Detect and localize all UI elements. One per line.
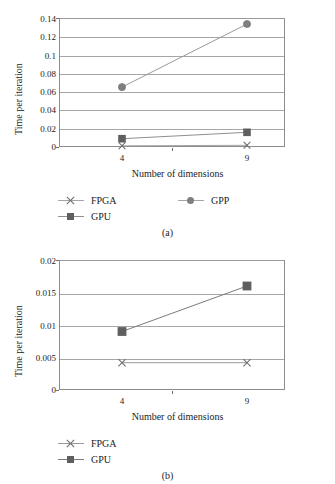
legend-label-gpp-a: GPP: [211, 195, 229, 206]
x-glyph: [66, 439, 75, 448]
legend-label-gpu-b: GPU: [91, 454, 111, 465]
data-point-gpu-b-4: [118, 327, 127, 336]
square-marker-icon: [58, 454, 84, 465]
x-marker-icon: [58, 438, 84, 449]
x-axis-title-a: Number of dimensions: [10, 168, 335, 179]
x-axis-title-b: Number of dimensions: [10, 411, 335, 422]
legend-item-fpga-a: FPGA: [58, 195, 117, 206]
x-marker-icon: [58, 195, 84, 206]
series-line-gpu-b: [122, 286, 247, 332]
legend-item-gpu-b: GPU: [58, 454, 111, 465]
data-point-gpu-a-9: [243, 129, 251, 137]
legend-label-fpga-a: FPGA: [91, 195, 117, 206]
figure-caption-a: (a): [0, 227, 335, 238]
data-point-gpu-a-4: [118, 135, 126, 143]
x-glyph: [66, 196, 75, 205]
figure-panel-a: Time per iteration 0.14 0.12 0.1 0.08 0.…: [0, 0, 335, 242]
series-line-gpp-a: [122, 24, 247, 87]
data-point-gpp-a-9: [243, 20, 250, 27]
circle-marker-icon: [178, 195, 204, 206]
square-marker-icon: [58, 211, 84, 222]
data-point-gpp-a-4: [118, 84, 125, 91]
legend-a: FPGA GPP GPU: [0, 195, 335, 225]
legend-item-gpu-a: GPU: [58, 211, 111, 222]
series-line-fpga-a: [122, 145, 247, 146]
series-line-gpu-a: [122, 132, 247, 138]
legend-item-gpp-a: GPP: [178, 195, 229, 206]
data-point-gpu-b-9: [243, 282, 252, 291]
legend-item-fpga-b: FPGA: [58, 438, 117, 449]
legend-label-gpu-a: GPU: [91, 211, 111, 222]
square-glyph: [67, 456, 74, 463]
figure-panel-b: Time per iteration 0.02 0.015 0.01 0.005…: [0, 242, 335, 484]
square-glyph: [67, 213, 74, 220]
legend-label-fpga-b: FPGA: [91, 438, 117, 449]
circle-glyph: [187, 197, 194, 204]
figure-caption-b: (b): [0, 470, 335, 481]
legend-b: FPGA GPU: [0, 438, 335, 468]
